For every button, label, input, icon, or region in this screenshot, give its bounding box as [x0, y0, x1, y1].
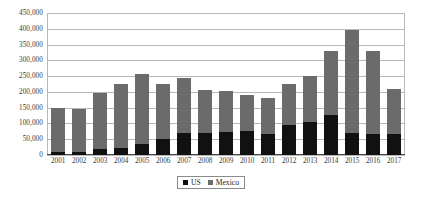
- plot-area: [47, 13, 405, 155]
- bar-column: [114, 13, 128, 155]
- bar-segment-us: [282, 125, 296, 155]
- bar-segment-us: [303, 122, 317, 155]
- bar-column: [135, 13, 149, 155]
- bar-column: [324, 13, 338, 155]
- bar-segment-us: [345, 133, 359, 155]
- bar-segment-mexico: [282, 84, 296, 125]
- bar-segment-us: [219, 132, 233, 155]
- x-axis-tick-label: 2012: [282, 157, 296, 165]
- bar-column: [156, 13, 170, 155]
- legend: US Mexico: [0, 176, 422, 189]
- bar-column: [345, 13, 359, 155]
- x-axis-tick-label: 2004: [114, 157, 128, 165]
- bar-column: [303, 13, 317, 155]
- bar-segment-mexico: [156, 84, 170, 139]
- bar-column: [282, 13, 296, 155]
- bar-segment-us: [135, 144, 149, 155]
- x-axis-tick-label: 2005: [135, 157, 149, 165]
- bar-column: [240, 13, 254, 155]
- x-axis-tick-label: 2016: [366, 157, 380, 165]
- bar-segment-us: [198, 133, 212, 155]
- y-axis-tick-label: 150,000: [0, 104, 43, 112]
- y-axis-tick-label: 400,000: [0, 25, 43, 33]
- x-axis-tick-label: 2001: [51, 157, 65, 165]
- legend-box: US Mexico: [177, 176, 245, 189]
- bar-segment-us: [51, 152, 65, 155]
- bar-segment-mexico: [198, 90, 212, 133]
- bar-column: [51, 13, 65, 155]
- bar-segment-mexico: [114, 84, 128, 148]
- bar-segment-us: [261, 134, 275, 155]
- x-axis-tick-label: 2009: [219, 157, 233, 165]
- bar-segment-mexico: [51, 108, 65, 151]
- x-axis-tick-label: 2007: [177, 157, 191, 165]
- bar-segment-us: [240, 131, 254, 155]
- bar-segment-mexico: [177, 78, 191, 133]
- legend-swatch-mexico-icon: [208, 180, 213, 185]
- bar-segment-mexico: [135, 74, 149, 144]
- y-axis-tick-label: 0: [0, 151, 43, 159]
- bar-segment-mexico: [387, 89, 401, 134]
- bar-column: [177, 13, 191, 155]
- bar-segment-us: [156, 139, 170, 155]
- x-axis-tick-label: 2011: [261, 157, 275, 165]
- x-axis-tick-label: 2013: [303, 157, 317, 165]
- y-axis-tick-label: 450,000: [0, 9, 43, 17]
- x-axis-tick-label: 2017: [387, 157, 401, 165]
- bar-segment-us: [324, 115, 338, 155]
- bar-segment-us: [114, 148, 128, 155]
- x-axis-tick-label: 2014: [324, 157, 338, 165]
- legend-item-us: US: [183, 178, 201, 187]
- bar-column: [387, 13, 401, 155]
- bar-chart: 050,000100,000150,000200,000250,000300,0…: [0, 0, 422, 199]
- bar-segment-us: [366, 134, 380, 155]
- y-axis-tick-label: 250,000: [0, 72, 43, 80]
- bar-series-group: [47, 13, 405, 155]
- bar-segment-mexico: [219, 91, 233, 132]
- bar-column: [261, 13, 275, 155]
- bar-segment-mexico: [93, 93, 107, 149]
- bar-segment-mexico: [366, 51, 380, 134]
- bar-segment-mexico: [324, 51, 338, 115]
- legend-swatch-us-icon: [183, 180, 188, 185]
- legend-label-us: US: [191, 178, 201, 187]
- bar-segment-mexico: [345, 30, 359, 133]
- bar-segment-us: [72, 152, 86, 155]
- x-axis-tick-labels: 2001200220032004200520062007200820092010…: [47, 157, 405, 165]
- y-axis-tick-label: 100,000: [0, 119, 43, 127]
- bar-segment-us: [93, 149, 107, 155]
- x-axis-tick-label: 2006: [156, 157, 170, 165]
- x-axis-tick-label: 2008: [198, 157, 212, 165]
- bar-column: [93, 13, 107, 155]
- legend-item-mexico: Mexico: [208, 178, 239, 187]
- x-axis-tick-label: 2003: [93, 157, 107, 165]
- bar-segment-mexico: [240, 95, 254, 131]
- y-axis-tick-label: 200,000: [0, 88, 43, 96]
- bar-segment-us: [387, 134, 401, 155]
- bar-column: [72, 13, 86, 155]
- bar-column: [366, 13, 380, 155]
- bar-segment-mexico: [303, 76, 317, 122]
- y-axis-tick-label: 300,000: [0, 56, 43, 64]
- x-axis-tick-label: 2015: [345, 157, 359, 165]
- gridline: [47, 155, 405, 156]
- bar-segment-mexico: [72, 109, 86, 152]
- legend-label-mexico: Mexico: [216, 178, 239, 187]
- bar-segment-us: [177, 133, 191, 155]
- bar-segment-mexico: [261, 98, 275, 134]
- bar-column: [219, 13, 233, 155]
- y-axis-tick-label: 50,000: [0, 135, 43, 143]
- y-axis-tick-label: 350,000: [0, 41, 43, 49]
- x-axis-tick-label: 2010: [240, 157, 254, 165]
- x-axis-tick-label: 2002: [72, 157, 86, 165]
- bar-column: [198, 13, 212, 155]
